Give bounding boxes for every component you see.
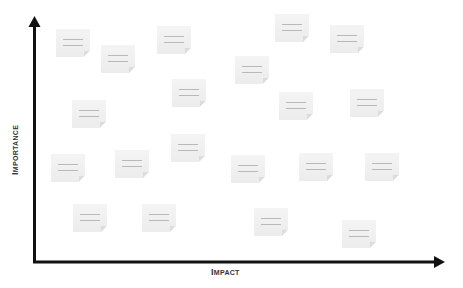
prioritization-diagram: IMPACT IMPORTANCE — [0, 0, 463, 288]
note-text-line — [372, 169, 392, 170]
note-text-line — [242, 66, 262, 67]
note-text-line — [80, 220, 100, 221]
note-text-line — [282, 30, 302, 31]
note-text-line — [122, 166, 142, 167]
sticky-note[interactable] — [275, 14, 309, 42]
note-text-line — [178, 150, 198, 151]
sticky-note[interactable] — [365, 153, 399, 181]
note-text-line — [349, 236, 369, 237]
note-text-line — [178, 144, 198, 145]
note-text-line — [337, 41, 357, 42]
note-text-line — [238, 165, 258, 166]
note-text-line — [286, 102, 306, 103]
sticky-note[interactable] — [342, 220, 376, 248]
note-text-line — [79, 110, 99, 111]
sticky-note[interactable] — [51, 154, 85, 182]
note-text-line — [108, 61, 128, 62]
note-text-line — [282, 24, 302, 25]
note-text-line — [357, 99, 377, 100]
note-text-line — [58, 170, 78, 171]
sticky-note[interactable] — [115, 150, 149, 178]
note-text-line — [286, 108, 306, 109]
note-text-line — [261, 224, 281, 225]
note-text-line — [306, 169, 326, 170]
note-text-line — [179, 89, 199, 90]
note-text-line — [357, 105, 377, 106]
note-text-line — [80, 214, 100, 215]
y-axis-arrow-icon — [29, 16, 41, 27]
note-text-line — [242, 72, 262, 73]
note-text-line — [261, 218, 281, 219]
x-axis-label-rest: MPACT — [214, 269, 240, 276]
sticky-note[interactable] — [157, 26, 191, 54]
sticky-note[interactable] — [101, 45, 135, 73]
sticky-note[interactable] — [254, 208, 288, 236]
note-text-line — [63, 45, 83, 46]
note-text-line — [179, 95, 199, 96]
sticky-note[interactable] — [72, 100, 106, 128]
sticky-note[interactable] — [350, 89, 384, 117]
sticky-note[interactable] — [279, 92, 313, 120]
note-text-line — [79, 116, 99, 117]
sticky-note[interactable] — [330, 25, 364, 53]
note-text-line — [349, 230, 369, 231]
note-text-line — [306, 163, 326, 164]
y-axis-label-initial: I — [10, 172, 20, 175]
note-text-line — [58, 164, 78, 165]
sticky-note[interactable] — [56, 29, 90, 57]
sticky-note[interactable] — [73, 204, 107, 232]
note-text-line — [122, 160, 142, 161]
x-axis-label: IMPACT — [211, 267, 240, 277]
note-text-line — [108, 55, 128, 56]
sticky-note[interactable] — [171, 134, 205, 162]
note-text-line — [372, 163, 392, 164]
note-text-line — [337, 35, 357, 36]
sticky-note[interactable] — [172, 79, 206, 107]
sticky-note[interactable] — [235, 56, 269, 84]
sticky-note[interactable] — [142, 204, 176, 232]
y-axis-label: IMPORTANCE — [10, 125, 20, 175]
note-text-line — [238, 171, 258, 172]
sticky-note[interactable] — [231, 155, 265, 183]
y-axis-label-rest: MPORTANCE — [12, 125, 19, 172]
x-axis-arrow-icon — [434, 256, 445, 268]
note-text-line — [164, 36, 184, 37]
note-text-line — [149, 214, 169, 215]
sticky-note[interactable] — [299, 153, 333, 181]
note-text-line — [149, 220, 169, 221]
note-text-line — [63, 39, 83, 40]
note-text-line — [164, 42, 184, 43]
